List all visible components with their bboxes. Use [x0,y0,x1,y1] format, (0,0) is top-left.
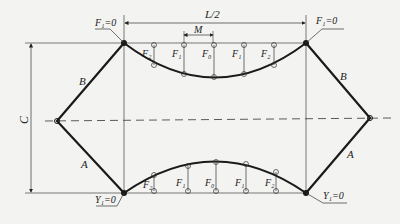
member-a-left-label: A [80,158,88,170]
truss-diagram: C L/2 M B A B A F₂ F₁ F₀ F₁ F₂ F₂ F₁ F₀ … [0,0,400,224]
bottom-stations [152,160,279,194]
m-dimension-label: M [193,24,203,35]
bottom-station-label-4: F₂ [264,177,275,188]
top-left-support-label: F₁=0 [94,17,116,28]
top-station-label-2: F₀ [201,48,212,59]
member-b-left-label: B [79,75,86,87]
top-station-label-4: F₂ [260,48,271,59]
c-dimension-label: C [17,115,31,124]
top-station-label-0: F₂ [141,48,152,59]
l2-dimension-label: L/2 [204,8,220,20]
bottom-station-label-1: F₁ [175,177,186,188]
bottom-station-label-3: F₁ [234,177,245,188]
top-stations [152,43,277,80]
top-right-support-label: F₁=0 [315,15,337,26]
bottom-right-support-label: Y₁=0 [323,190,344,201]
centerline [45,118,392,121]
bottom-station-label-2: F₀ [204,177,215,188]
bottom-left-support-label: Y₁=0 [95,194,116,205]
member-a-right-label: A [346,148,354,160]
member-left [57,43,124,193]
top-station-label-1: F₁ [171,48,182,59]
member-b-right-label: B [340,70,347,82]
top-station-label-3: F₁ [231,48,242,59]
bottom-station-label-0: F₂ [142,179,153,190]
